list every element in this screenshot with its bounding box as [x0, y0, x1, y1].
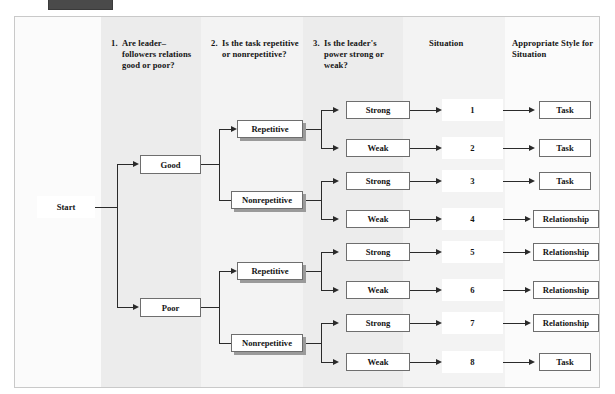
arrow-task3-strong	[333, 249, 339, 255]
style-box-8[interactable]: Task	[539, 353, 591, 371]
style-box-6[interactable]: Relationship	[533, 281, 599, 299]
relation-box-poor[interactable]: Poor	[140, 298, 201, 317]
line-power-situation-8	[410, 362, 436, 363]
arrow-task1-weak	[333, 145, 339, 151]
line-task1-weak	[321, 148, 333, 149]
line-good-nonrep	[219, 200, 231, 201]
arrow-style-4	[525, 216, 531, 222]
task-label-1: Repetitive	[251, 124, 288, 134]
style-box-7[interactable]: Relationship	[533, 314, 599, 332]
situation-box-8[interactable]: 8	[442, 351, 503, 373]
relation-box-good[interactable]: Good	[140, 155, 201, 174]
column-header-relations: 1. Are leader–followers rela­tions good …	[111, 38, 199, 72]
task-box-3[interactable]: Repetitive	[237, 262, 303, 280]
line-poor-rep	[219, 271, 231, 272]
column-header-task: 2. Is the task repetitive or nonrepetiti…	[211, 38, 301, 60]
line-start-trunk	[117, 164, 118, 307]
situation-box-5[interactable]: 5	[442, 241, 503, 263]
line-task2-split	[321, 181, 322, 219]
line-situation-style-4	[503, 219, 525, 220]
task-box-4[interactable]: Nonrepetitive	[231, 334, 303, 352]
arrow-task3-weak	[333, 287, 339, 293]
line-task3-split	[321, 252, 322, 290]
power-box-7[interactable]: Strong	[346, 314, 410, 332]
style-label-7: Relationship	[543, 318, 589, 328]
line-power-situation-6	[410, 290, 436, 291]
power-label-3: Strong	[366, 176, 391, 186]
style-box-5[interactable]: Relationship	[533, 243, 599, 261]
start-label: Start	[57, 202, 76, 212]
situation-box-7[interactable]: 7	[442, 312, 503, 334]
line-task1-out	[303, 129, 321, 130]
situation-number-2: 2	[470, 143, 474, 153]
line-power-situation-2	[410, 148, 436, 149]
arrow-style-3	[529, 178, 535, 184]
line-task4-split	[321, 323, 322, 362]
power-label-4: Weak	[367, 214, 388, 224]
task-label-2: Nonrepetitive	[242, 195, 292, 205]
line-good-out	[201, 164, 219, 165]
task-box-2[interactable]: Nonrepetitive	[231, 191, 303, 209]
style-label-3: Task	[556, 176, 573, 186]
power-box-6[interactable]: Weak	[346, 281, 410, 299]
line-poor-out	[201, 307, 219, 308]
style-box-1[interactable]: Task	[539, 101, 591, 119]
column-header-power-number: 3.	[313, 38, 320, 49]
line-situation-style-7	[503, 323, 525, 324]
situation-box-6[interactable]: 6	[442, 279, 503, 301]
start-box[interactable]: Start	[37, 196, 95, 218]
situation-number-1: 1	[470, 105, 474, 115]
column-header-relations-text: Are leader–followers rela­tions good or …	[122, 38, 199, 72]
column-header-style-text: Appropriate Style for Situation	[512, 38, 600, 60]
arrow-style-5	[525, 249, 531, 255]
power-box-5[interactable]: Strong	[346, 243, 410, 261]
line-good-split	[219, 129, 220, 200]
power-box-2[interactable]: Weak	[346, 139, 410, 157]
line-situation-style-3	[503, 181, 529, 182]
situation-box-4[interactable]: 4	[442, 208, 503, 230]
style-box-3[interactable]: Task	[539, 172, 591, 190]
line-task3-out	[303, 271, 321, 272]
line-situation-style-2	[503, 148, 529, 149]
task-box-1[interactable]: Repetitive	[237, 120, 303, 138]
power-label-1: Strong	[366, 105, 391, 115]
situation-box-2[interactable]: 2	[442, 137, 503, 159]
situation-number-5: 5	[470, 247, 474, 257]
power-box-3[interactable]: Strong	[346, 172, 410, 190]
line-task4-out	[303, 343, 321, 344]
arrow-style-2	[529, 145, 535, 151]
power-box-1[interactable]: Strong	[346, 101, 410, 119]
situation-number-7: 7	[470, 318, 474, 328]
power-label-7: Strong	[366, 318, 391, 328]
situation-box-1[interactable]: 1	[442, 99, 503, 121]
column-header-power: 3. Is the leader's power strong or weak?	[313, 38, 399, 72]
band-column-relations	[101, 17, 201, 387]
column-header-relations-number: 1.	[111, 38, 118, 49]
situation-number-3: 3	[470, 176, 474, 186]
style-box-2[interactable]: Task	[539, 139, 591, 157]
style-label-5: Relationship	[543, 247, 589, 257]
arrow-style-6	[525, 287, 531, 293]
line-poor-nonrep	[219, 343, 231, 344]
line-start-out	[95, 207, 117, 208]
arrow-task4-strong	[333, 320, 339, 326]
arrow-style-8	[529, 359, 535, 365]
arrow-to-good	[133, 161, 139, 167]
arrow-task2-strong	[333, 178, 339, 184]
line-power-situation-1	[410, 110, 436, 111]
situation-box-3[interactable]: 3	[442, 170, 503, 192]
power-box-8[interactable]: Weak	[346, 353, 410, 371]
arrow-task2-weak	[333, 216, 339, 222]
line-situation-style-8	[503, 362, 529, 363]
line-task4-weak	[321, 362, 333, 363]
style-label-8: Task	[556, 357, 573, 367]
task-label-3: Repetitive	[251, 266, 288, 276]
flowchart-figure: 1. Are leader–followers rela­tions good …	[14, 16, 600, 388]
arrow-style-1	[529, 107, 535, 113]
power-box-4[interactable]: Weak	[346, 210, 410, 228]
line-power-situation-5	[410, 252, 436, 253]
line-trunk-poor	[117, 307, 133, 308]
line-power-situation-3	[410, 181, 436, 182]
situation-number-8: 8	[470, 357, 474, 367]
style-box-4[interactable]: Relationship	[533, 210, 599, 228]
